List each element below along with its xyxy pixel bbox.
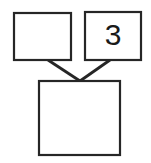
connector-top-left-to-bottom <box>48 60 80 81</box>
tree-diagram: 3 <box>0 0 151 163</box>
empty-box-bottom[interactable] <box>39 81 120 155</box>
numbered-box-top-right-label: 3 <box>105 18 122 51</box>
diagram-canvas: 3 <box>0 0 151 163</box>
empty-box-top-left[interactable] <box>14 13 71 60</box>
connector-top-right-to-bottom <box>80 60 110 81</box>
